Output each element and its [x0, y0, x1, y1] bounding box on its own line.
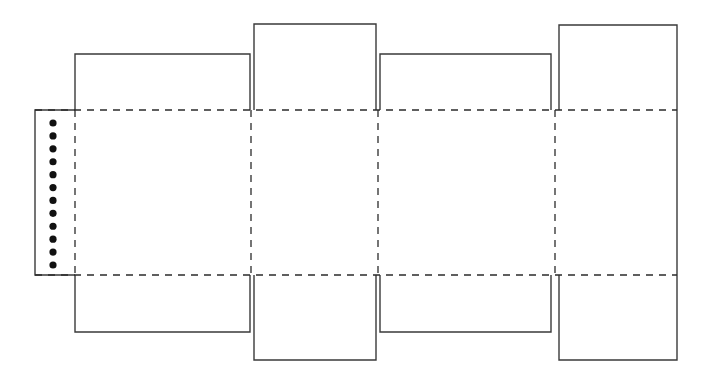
glue-dot-6: [49, 184, 56, 191]
bottom-flap-side-right-cut: [559, 275, 677, 360]
glue-dot-1: [49, 119, 56, 126]
glue-dot-11: [49, 248, 56, 255]
top-flap-back-cut: [380, 54, 551, 110]
glue-dot-5: [49, 171, 56, 178]
top-flap-front-cut: [75, 54, 250, 110]
glue-dot-10: [49, 236, 56, 243]
cut-lines-group: [35, 24, 677, 360]
glue-dot-7: [49, 197, 56, 204]
glue-dot-4: [49, 158, 56, 165]
glue-dot-3: [49, 145, 56, 152]
bottom-flap-front-cut: [75, 275, 250, 332]
bottom-flap-side-left-cut: [254, 275, 376, 360]
dieline-canvas: [0, 0, 711, 380]
top-flap-side-right-cut: [559, 25, 677, 110]
fold-lines-group: [35, 110, 677, 275]
glue-dot-9: [49, 223, 56, 230]
glue-dot-pattern: [49, 119, 56, 268]
bottom-flap-back-cut: [380, 275, 551, 332]
glue-dot-12: [49, 261, 56, 268]
top-flap-side-left-cut: [254, 24, 376, 110]
glue-dot-2: [49, 132, 56, 139]
dieline-drawing: [0, 0, 711, 380]
glue-dot-8: [49, 210, 56, 217]
